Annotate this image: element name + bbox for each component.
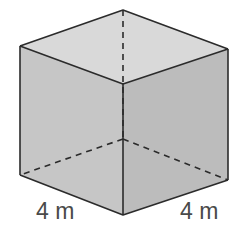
left-edge-label: 4 m <box>36 200 74 223</box>
right-edge-label: 4 m <box>180 200 218 223</box>
